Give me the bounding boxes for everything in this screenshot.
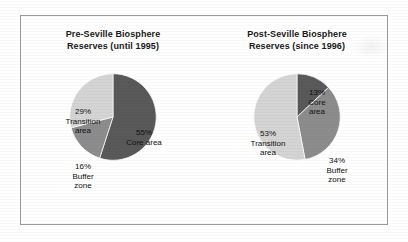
chart-panel-pre-seville: Pre-Seville Biosphere Reserves (until 19…	[21, 16, 205, 224]
pie-svg-post-seville	[251, 71, 343, 163]
chart-title-pre-seville: Pre-Seville Biosphere Reserves (until 19…	[21, 28, 205, 52]
pie-svg-pre-seville	[67, 71, 159, 163]
chart-title-post-seville-line1: Post-Seville Biosphere	[247, 29, 347, 39]
figure-frame: Pre-Seville Biosphere Reserves (until 19…	[20, 15, 388, 225]
chart-title-pre-seville-line2: Reserves (until 1995)	[21, 40, 205, 52]
chart-title-post-seville: Post-Seville Biosphere Reserves (since 1…	[205, 28, 389, 52]
chart-title-pre-seville-line1: Pre-Seville Biosphere	[66, 29, 161, 39]
chart-title-post-seville-line2: Reserves (since 1996)	[205, 40, 389, 52]
pie-chart-post-seville	[251, 71, 343, 163]
pie-chart-pre-seville	[67, 71, 159, 163]
chart-panel-post-seville: Post-Seville Biosphere Reserves (since 1…	[205, 16, 389, 224]
